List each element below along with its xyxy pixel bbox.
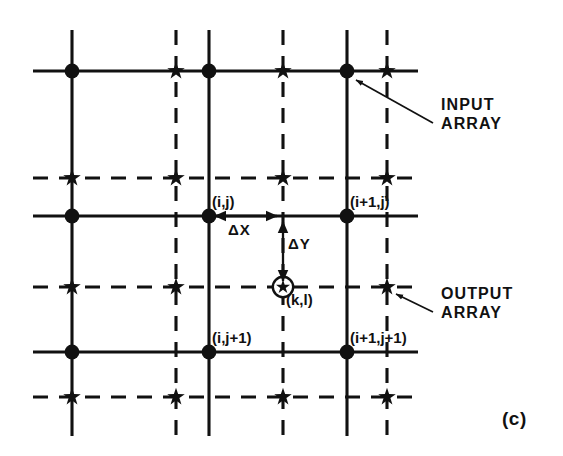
input-node-i-j1 bbox=[202, 345, 217, 360]
input-node-mid-left bbox=[65, 209, 80, 224]
figure-panel-c: (i,j) (i+1,j) (i,j+1) (i+1,j+1) (k,l) ΔX… bbox=[0, 0, 563, 456]
node-label-i1-j1: (i+1,j+1) bbox=[350, 329, 407, 347]
input-node-top-left bbox=[65, 64, 80, 79]
delta-y-label: ΔY bbox=[288, 235, 311, 253]
interpolation-grid-diagram bbox=[0, 0, 563, 456]
input-node-i-j bbox=[202, 209, 217, 224]
output-array-callout-label: OUTPUT ARRAY bbox=[441, 285, 513, 323]
input-array-gridlines bbox=[33, 30, 418, 436]
input-node-i1-j1 bbox=[340, 345, 355, 360]
panel-label: (c) bbox=[502, 408, 527, 430]
node-label-k-l: (k,l) bbox=[286, 291, 313, 309]
node-label-i1-j: (i+1,j) bbox=[350, 193, 390, 211]
output-array-leader bbox=[396, 294, 433, 312]
input-node-top-right bbox=[340, 64, 355, 79]
delta-x-label: ΔX bbox=[228, 221, 251, 239]
input-node-top-mid bbox=[202, 64, 217, 79]
output-array-gridlines bbox=[33, 30, 418, 436]
input-node-bot-left bbox=[65, 345, 80, 360]
input-array-leader bbox=[356, 80, 433, 123]
input-array-callout-label: INPUT ARRAY bbox=[441, 96, 502, 134]
input-node-i1-j bbox=[340, 209, 355, 224]
node-label-i-j: (i,j) bbox=[212, 193, 235, 211]
node-label-i-j1: (i,j+1) bbox=[212, 329, 252, 347]
